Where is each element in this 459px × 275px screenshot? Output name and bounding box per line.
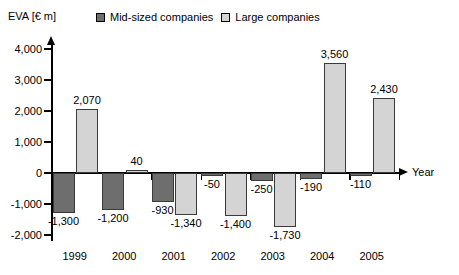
- bar-2000-mid-sized: [102, 173, 124, 210]
- y-axis-tick-label: 1,000: [14, 136, 42, 148]
- bar-value-label: -1,340: [160, 217, 212, 229]
- y-axis-arrow-icon: [47, 36, 55, 45]
- x-axis-category-label: 2001: [149, 250, 199, 262]
- y-axis-tick: [44, 79, 52, 81]
- bar-2005-large: [373, 98, 395, 173]
- bar-value-label: -1,300: [38, 215, 90, 227]
- x-axis-category-label: 2004: [298, 250, 348, 262]
- bar-value-label: 3,560: [309, 48, 361, 60]
- bar-value-label: -190: [285, 181, 337, 193]
- x-axis-category-label: 2003: [248, 250, 298, 262]
- y-axis-tick: [44, 203, 52, 205]
- y-axis-tick: [44, 234, 52, 236]
- y-axis-tick: [44, 172, 52, 174]
- x-axis-category-label: 1999: [50, 250, 100, 262]
- y-axis-tick-label: 0: [36, 167, 42, 179]
- bar-value-label: -1,200: [87, 212, 139, 224]
- x-axis-category-label: 2000: [100, 250, 150, 262]
- bar-value-label: -110: [335, 178, 387, 190]
- bar-value-label: -1,730: [259, 229, 311, 241]
- bar-value-label: 40: [111, 155, 163, 167]
- y-axis-tick: [44, 141, 52, 143]
- bar-2005-mid-sized: [350, 173, 372, 176]
- plot-area: Year 4,0003,0002,0001,0000-1,000-2,000 -…: [0, 0, 459, 275]
- bar-2003-mid-sized: [251, 173, 273, 181]
- y-axis-tick-labels: 4,0003,0002,0001,0000-1,000-2,000: [0, 0, 42, 275]
- eva-bar-chart: EVA [€ m] Mid-sized companies Large comp…: [0, 0, 459, 275]
- y-axis-tick: [44, 110, 52, 112]
- y-axis-tick-label: 2,000: [14, 105, 42, 117]
- y-axis-tick-label: -1,000: [11, 198, 42, 210]
- y-axis-tick-label: -2,000: [11, 229, 42, 241]
- x-axis-arrow-icon: [399, 168, 408, 176]
- bar-2004-large: [324, 63, 346, 173]
- bar-1999-mid-sized: [53, 173, 75, 213]
- bar-value-label: -1,400: [210, 218, 262, 230]
- x-axis-tick: [399, 173, 401, 180]
- y-axis-tick-label: 4,000: [14, 43, 42, 55]
- y-axis-tick: [44, 48, 52, 50]
- bar-2002-mid-sized: [201, 173, 223, 176]
- y-axis-tick-label: 3,000: [14, 74, 42, 86]
- bar-2001-mid-sized: [152, 173, 174, 202]
- bar-value-label: 2,430: [358, 83, 410, 95]
- bar-1999-large: [76, 109, 98, 173]
- bar-2000-large: [126, 170, 148, 173]
- x-axis-title: Year: [412, 166, 434, 178]
- x-axis-category-label: 2002: [199, 250, 249, 262]
- bar-2004-mid-sized: [300, 173, 322, 179]
- x-axis-category-label: 2005: [347, 250, 397, 262]
- bar-value-label: 2,070: [61, 94, 113, 106]
